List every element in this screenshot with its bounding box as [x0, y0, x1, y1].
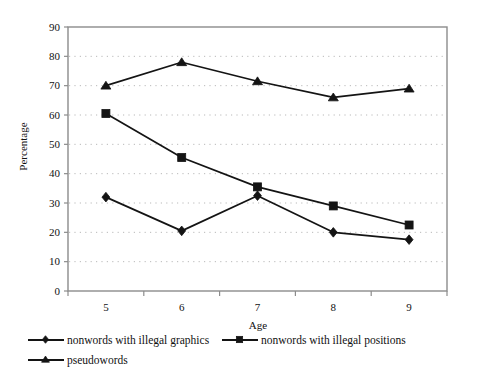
legend-marker-triangle [28, 353, 64, 367]
y-tick-label: 70 [34, 80, 60, 91]
y-tick-label: 90 [34, 22, 60, 33]
data-point-square [254, 183, 262, 191]
data-point-square [405, 221, 413, 229]
data-point-diamond [405, 235, 413, 245]
series-1 [102, 191, 413, 245]
chart-legend: nonwords with illegal graphicsnonwords w… [0, 330, 480, 380]
line-chart: 9080706050403020100 56789 Percentage Age… [0, 0, 480, 385]
legend-item: nonwords with illegal positions [222, 332, 406, 348]
x-tick-label: 9 [389, 302, 429, 313]
legend-marker-diamond [28, 333, 64, 347]
data-point-diamond [254, 191, 262, 201]
plot-frame [68, 27, 447, 291]
x-tick-label: 7 [238, 302, 278, 313]
gridlines [69, 56, 446, 261]
x-tick-label: 8 [313, 302, 353, 313]
series-3 [101, 58, 414, 101]
data-point-diamond [102, 192, 110, 202]
y-tick-label: 20 [34, 227, 60, 238]
data-point-triangle [177, 58, 187, 66]
y-tick-label: 30 [34, 198, 60, 209]
y-tick-label: 60 [34, 110, 60, 121]
y-tick-label: 0 [34, 286, 60, 297]
data-point-square [178, 154, 186, 162]
series-2 [102, 110, 413, 229]
legend-marker-square [222, 333, 258, 347]
y-axis-title: Percentage [18, 102, 29, 192]
legend-label: pseudowords [64, 354, 128, 367]
data-point-diamond [178, 226, 186, 236]
x-tick-label: 6 [162, 302, 202, 313]
data-point-triangle [404, 84, 414, 92]
x-tick-label: 5 [86, 302, 126, 313]
y-tick-label: 80 [34, 51, 60, 62]
y-tick-label: 50 [34, 139, 60, 150]
legend-item: pseudowords [28, 352, 128, 368]
data-point-square [102, 110, 110, 118]
y-tick-label: 40 [34, 168, 60, 179]
data-point-square [329, 202, 337, 210]
y-tick-label: 10 [34, 256, 60, 267]
legend-label: nonwords with illegal graphics [64, 334, 209, 347]
legend-item: nonwords with illegal graphics [28, 332, 209, 348]
square-icon [234, 334, 245, 345]
triangle-icon [40, 354, 51, 365]
axis-tick-marks [64, 27, 447, 296]
legend-label: nonwords with illegal positions [258, 334, 406, 347]
data-point-diamond [329, 228, 337, 238]
diamond-icon [40, 334, 51, 345]
